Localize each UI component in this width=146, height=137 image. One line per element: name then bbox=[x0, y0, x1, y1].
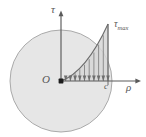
shear-stress-figure: τ τmax O c ρ bbox=[0, 0, 146, 137]
tau-max-subscript: max bbox=[118, 24, 129, 31]
tau-max-label: τmax bbox=[114, 19, 128, 32]
tau-axis-label: τ bbox=[51, 4, 55, 15]
rho-axis-arrowhead bbox=[135, 79, 141, 84]
tau-axis-arrowhead bbox=[59, 11, 64, 17]
origin-dot bbox=[59, 79, 64, 84]
origin-label: O bbox=[42, 74, 50, 85]
radius-label: c bbox=[104, 82, 108, 91]
rho-axis-label: ρ bbox=[126, 82, 131, 93]
